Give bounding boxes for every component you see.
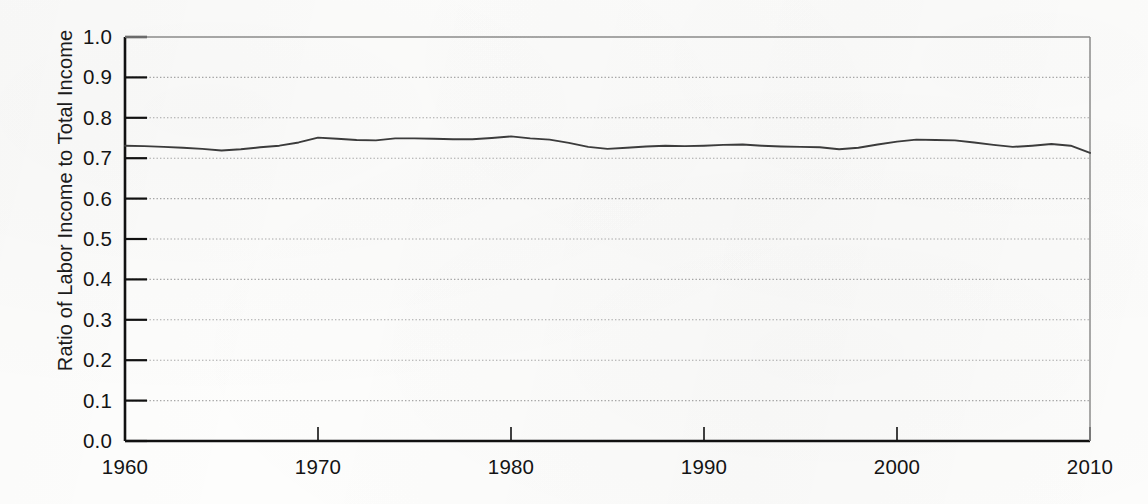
- chart-figure: Ratio of Labor Income to Total Income 1.…: [0, 0, 1148, 504]
- plot-area: [0, 0, 1148, 504]
- data-series-line: [125, 136, 1090, 153]
- gridlines: [125, 77, 1090, 400]
